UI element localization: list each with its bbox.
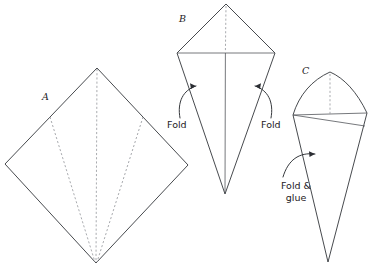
step-b-group: Fold Fold B bbox=[167, 4, 281, 194]
right-crease-a bbox=[97, 117, 143, 262]
step-label-c: C bbox=[302, 65, 310, 76]
fold-arrow-left-head bbox=[190, 83, 196, 89]
figure-canvas: A Fold Fold B bbox=[0, 0, 370, 270]
fold-arrow-right bbox=[255, 83, 272, 118]
center-crease-b bbox=[225, 6, 226, 52]
step-a-group: A bbox=[5, 68, 188, 263]
fold-glue-arrow-head bbox=[309, 151, 315, 157]
fold-label-left: Fold bbox=[167, 119, 187, 130]
cone-flap-edge-c bbox=[293, 115, 365, 126]
step-label-b: B bbox=[178, 13, 186, 24]
fold-glue-label-line1: Fold & bbox=[281, 180, 312, 191]
left-crease-a bbox=[50, 117, 95, 262]
step-c-group: Fold & glue C bbox=[281, 65, 367, 262]
center-crease-a bbox=[96, 69, 97, 262]
fold-glue-arrow-path bbox=[283, 154, 315, 177]
fold-label-right: Fold bbox=[261, 119, 281, 130]
fold-arrow-right-head bbox=[255, 83, 261, 89]
step-label-a: A bbox=[41, 91, 49, 102]
fold-glue-label-line2: glue bbox=[286, 192, 307, 203]
fold-glue-arrow bbox=[283, 151, 315, 177]
instruction-diagram: A Fold Fold B bbox=[0, 0, 370, 270]
